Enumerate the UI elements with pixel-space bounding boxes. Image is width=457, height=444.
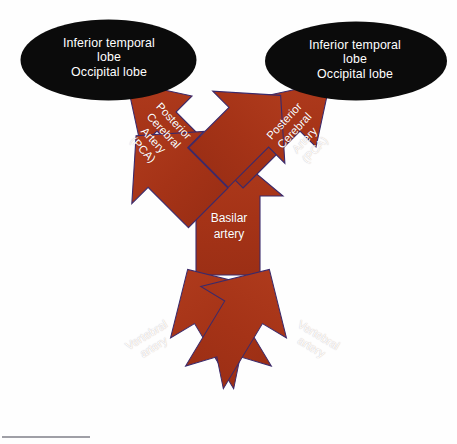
vessel-diagram-svg	[0, 0, 457, 444]
callout-ellipse-right	[265, 22, 447, 101]
scan-edge-artifact	[2, 436, 90, 438]
diagram-canvas: Inferior temporal lobe Occipital lobe In…	[0, 0, 457, 444]
callout-ellipse-left	[21, 20, 197, 101]
